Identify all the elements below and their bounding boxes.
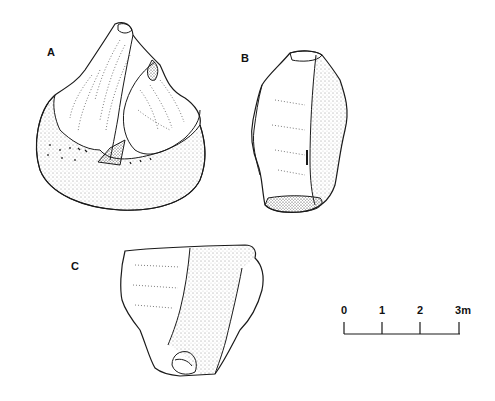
scale-tick-label-3: 3m bbox=[455, 304, 471, 316]
scale-tick-label-0: 0 bbox=[341, 304, 347, 316]
artifact-label-c: C bbox=[71, 260, 79, 272]
artifact-c-drawing bbox=[121, 245, 263, 376]
artifact-b-drawing bbox=[252, 51, 347, 212]
scale-tick-label-1: 1 bbox=[379, 304, 385, 316]
scale-bar bbox=[344, 322, 460, 334]
artifact-label-b: B bbox=[241, 52, 249, 64]
artifact-a-drawing bbox=[36, 23, 204, 211]
artifact-label-a: A bbox=[47, 46, 55, 58]
scale-tick-label-2: 2 bbox=[417, 304, 423, 316]
